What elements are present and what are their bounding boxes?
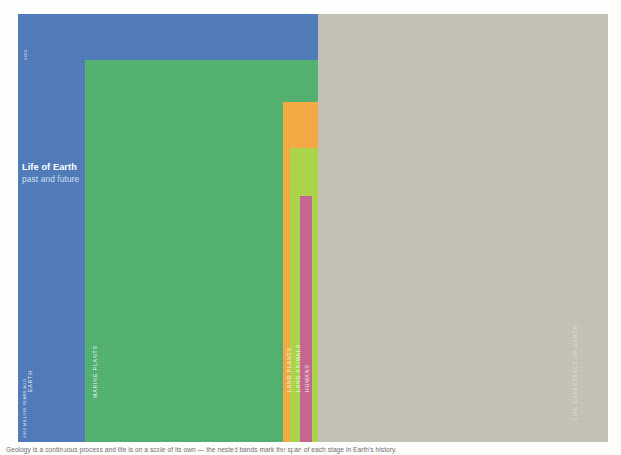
band-label-marine-plants: MARINE PLANTS	[93, 345, 98, 398]
band-humans	[300, 196, 312, 442]
figure-caption: Geology is a continuous process and life…	[6, 446, 606, 455]
axis-tick	[159, 443, 160, 455]
page-subtitle: past and future	[22, 174, 79, 185]
axis-tick	[293, 443, 294, 455]
band-label-earth: EARTH	[28, 370, 33, 392]
band-label-future: LIFE EXPECTANCY OF EARTH	[573, 325, 578, 420]
axis-tick	[470, 443, 471, 455]
axis-tick	[63, 443, 64, 455]
axis-tick	[301, 443, 302, 455]
axis-tick	[578, 443, 579, 455]
band-sublabel-earth-top: 4600	[24, 49, 28, 60]
axis-tick	[99, 443, 100, 455]
band-future	[318, 14, 608, 442]
axis-tick	[204, 443, 205, 455]
axis-tick	[283, 443, 284, 455]
page-title: Life of Earth	[22, 162, 79, 173]
poster-canvas: EARTH 4600 million years ago 4600 MARINE…	[0, 0, 621, 455]
band-label-land-animals: LAND ANIMALS	[296, 344, 301, 392]
band-label-humans: HUMANS	[305, 364, 310, 392]
band-label-land-plants: LAND PLANTS	[287, 347, 292, 392]
headline-block: Life of Earth past and future	[22, 162, 79, 184]
axis-tick	[400, 443, 401, 455]
band-sublabel-earth: 4600 million years ago	[23, 379, 27, 438]
axis-tick	[234, 443, 235, 455]
